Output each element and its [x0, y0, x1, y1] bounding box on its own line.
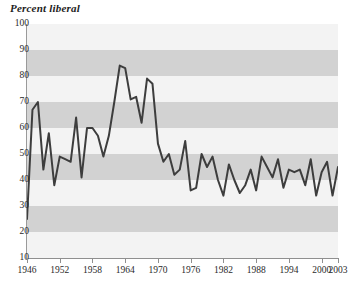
y-tick-label: 80	[5, 70, 29, 80]
x-tick	[191, 258, 192, 263]
x-tick	[125, 258, 126, 263]
plot-area	[27, 24, 338, 258]
y-tick-label: 10	[5, 252, 29, 262]
x-tick	[27, 258, 28, 263]
y-tick-label: 90	[5, 44, 29, 54]
y-tick-label: 60	[5, 122, 29, 132]
x-tick-label: 1964	[116, 265, 135, 275]
y-axis-line	[26, 24, 27, 259]
y-tick-label: 50	[5, 148, 29, 158]
x-tick-label: 1952	[50, 265, 69, 275]
x-tick	[60, 258, 61, 263]
x-axis-line	[26, 258, 339, 259]
x-tick	[92, 258, 93, 263]
line-series	[27, 24, 338, 258]
x-tick-label: 1994	[279, 265, 298, 275]
chart-title: Percent liberal	[10, 2, 80, 14]
x-tick-label: 1982	[214, 265, 233, 275]
series-polyline	[27, 66, 338, 219]
y-tick-label: 20	[5, 226, 29, 236]
x-tick-label: 1946	[18, 265, 37, 275]
x-tick	[158, 258, 159, 263]
y-tick-label: 30	[5, 200, 29, 210]
y-tick-label: 40	[5, 174, 29, 184]
x-tick-label: 1958	[83, 265, 102, 275]
x-tick	[289, 258, 290, 263]
x-tick-label: 1976	[181, 265, 200, 275]
x-tick-label: 1988	[247, 265, 266, 275]
x-tick-label: 1970	[148, 265, 167, 275]
x-tick	[256, 258, 257, 263]
y-tick-label: 70	[5, 96, 29, 106]
x-tick	[223, 258, 224, 263]
x-tick-label: 2003	[329, 265, 348, 275]
x-tick	[338, 258, 339, 263]
y-tick-label: 100	[5, 18, 29, 28]
x-tick	[322, 258, 323, 263]
